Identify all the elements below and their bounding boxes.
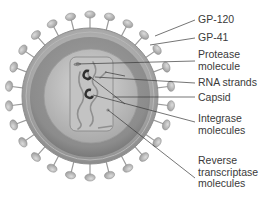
label-protease-molecule: Protease molecule xyxy=(198,49,240,72)
gp120-head xyxy=(167,100,175,111)
gp120-head xyxy=(161,61,171,73)
gp120-head xyxy=(17,136,29,149)
gp120-head xyxy=(5,100,13,111)
gp120-head xyxy=(9,61,19,73)
gp120-head xyxy=(65,170,77,179)
leader-gp41 xyxy=(150,38,195,45)
gp120-head xyxy=(122,163,135,174)
gp120-head xyxy=(85,174,95,181)
gp120-head xyxy=(151,43,163,56)
gp120-head xyxy=(46,163,59,174)
gp120-head xyxy=(9,119,19,131)
gp120-head xyxy=(85,11,95,18)
label-integrase-molecules: Integrase molecules xyxy=(198,113,245,136)
leader-gp120 xyxy=(155,20,195,36)
gp120-head xyxy=(5,81,13,92)
label-gp41: GP-41 xyxy=(198,32,228,44)
gp120-head xyxy=(46,18,59,29)
gp120-head xyxy=(17,43,29,56)
label-capsid: Capsid xyxy=(198,92,231,104)
gp120-head xyxy=(151,136,163,149)
label-reverse-transcriptase-molecules: Reverse transcriptase molecules xyxy=(198,155,258,190)
label-gp120: GP-120 xyxy=(198,14,234,26)
capsid-shape xyxy=(70,57,113,131)
gp120-head xyxy=(122,18,135,29)
gp120-head xyxy=(104,170,116,179)
gp120-head xyxy=(167,81,175,92)
gp120-head xyxy=(161,119,171,131)
gp120-head xyxy=(65,12,77,21)
gp120-head xyxy=(104,12,116,21)
label-rna-strands: RNA strands xyxy=(198,77,257,89)
